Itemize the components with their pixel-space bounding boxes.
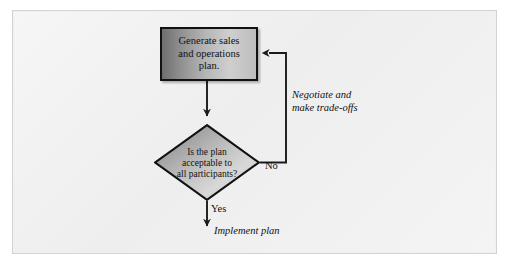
node-generate-plan-line1: Generate sales [179, 35, 240, 46]
node-generate-plan[interactable]: Generate salesand operationsplan. [160, 27, 258, 81]
node-generate-plan-line3: plan. [199, 60, 220, 71]
node-decision-line1: Is the plan [187, 146, 227, 156]
node-decision-line2: acceptable to [182, 157, 232, 167]
node-generate-plan-line2: and operations [178, 48, 240, 59]
annotation-negotiate-line1: Negotiate and [292, 89, 351, 100]
annotation-negotiate-trade-offs: Negotiate andmake trade-offs [292, 89, 358, 114]
edge-decision-no-loop [260, 53, 286, 163]
node-generate-plan-label: Generate salesand operationsplan. [174, 35, 244, 73]
node-decision-label: Is the planacceptable toall participants… [154, 146, 260, 179]
annotation-negotiate-line2: make trade-offs [292, 102, 358, 113]
edge-label-yes: Yes [211, 203, 226, 214]
annotation-implement-plan: Implement plan [214, 225, 280, 236]
node-decision-acceptable[interactable]: Is the planacceptable toall participants… [154, 124, 260, 201]
node-decision-line3: all participants? [177, 168, 237, 178]
edge-label-no: No [265, 160, 278, 171]
diagram-canvas: Generate salesand operationsplan. Is the… [0, 0, 513, 266]
